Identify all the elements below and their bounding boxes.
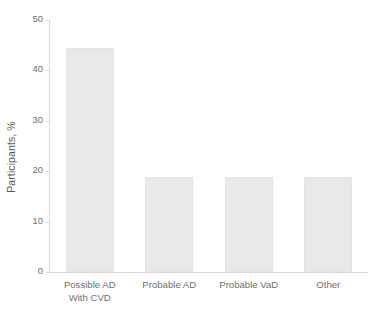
bar-chart: Participants, % 01020304050 Possible AD … <box>0 0 376 314</box>
y-tick-30: 30 <box>0 121 50 122</box>
y-tick-label: 40 <box>32 63 43 74</box>
y-tick-10: 10 <box>0 222 50 223</box>
y-tick-mark <box>46 121 50 122</box>
y-tick-mark <box>46 70 50 71</box>
x-axis-label: Other <box>289 279 369 292</box>
x-axis-line <box>49 272 368 273</box>
bar <box>225 177 273 272</box>
y-tick-mark <box>46 222 50 223</box>
y-tick-label: 50 <box>32 13 43 24</box>
x-axis-label: Probable AD <box>130 279 210 292</box>
bar <box>66 48 114 272</box>
y-tick-mark <box>46 272 50 273</box>
y-tick-mark <box>46 20 50 21</box>
y-tick-label: 0 <box>38 265 43 276</box>
y-tick-mark <box>46 171 50 172</box>
y-tick-50: 50 <box>0 20 50 21</box>
y-tick-0: 0 <box>0 272 50 273</box>
bar <box>145 177 193 272</box>
y-tick-40: 40 <box>0 70 50 71</box>
y-axis-line <box>49 20 50 273</box>
y-tick-label: 10 <box>32 215 43 226</box>
y-tick-label: 20 <box>32 164 43 175</box>
y-tick-label: 30 <box>32 114 43 125</box>
x-axis-label: Possible AD With CVD <box>50 279 130 304</box>
x-axis-label: Probable VaD <box>209 279 289 292</box>
y-tick-20: 20 <box>0 171 50 172</box>
y-axis-title: Participants, % <box>0 0 22 314</box>
bar <box>304 177 352 272</box>
